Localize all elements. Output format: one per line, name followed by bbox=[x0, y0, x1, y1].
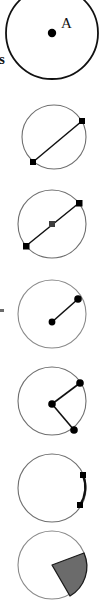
radius-segment bbox=[52, 299, 78, 322]
chord-endpoint-upper-right bbox=[79, 118, 85, 124]
chord-endpoint-lower-left bbox=[30, 159, 36, 165]
chord-segment bbox=[33, 121, 82, 162]
figure-circle-diameter bbox=[0, 184, 99, 264]
angle-endpoint-lower-right bbox=[70, 426, 78, 434]
radius-center-point bbox=[49, 319, 56, 326]
arc-endpoint-lower-right bbox=[77, 502, 83, 508]
arc-endpoint-upper-right bbox=[80, 472, 86, 478]
radius-endpoint-point bbox=[74, 295, 82, 303]
highlighted-arc bbox=[80, 475, 85, 505]
figure-circle-chord bbox=[0, 100, 99, 176]
angle-arm-lower bbox=[52, 404, 74, 430]
diameter-center-point bbox=[49, 221, 55, 227]
circle-outline bbox=[18, 280, 86, 348]
angle-endpoint-upper-right bbox=[76, 379, 84, 387]
circle-outline bbox=[6, 0, 98, 79]
shaded-sector bbox=[52, 553, 87, 596]
diameter-endpoint-lower-left bbox=[23, 243, 30, 250]
figure-circle-radius bbox=[0, 272, 99, 352]
circle-outline bbox=[18, 454, 86, 522]
figure-circle-arc bbox=[0, 448, 99, 528]
center-point bbox=[48, 29, 56, 37]
center-point-label: A bbox=[61, 15, 72, 31]
figure-circle-sector bbox=[0, 528, 99, 604]
figure-circle-central-angle bbox=[0, 358, 99, 442]
angle-vertex-point bbox=[48, 400, 56, 408]
figure-circle-center: A bbox=[0, 0, 99, 92]
diameter-endpoint-upper-right bbox=[76, 200, 83, 207]
angle-arm-upper bbox=[52, 383, 80, 404]
